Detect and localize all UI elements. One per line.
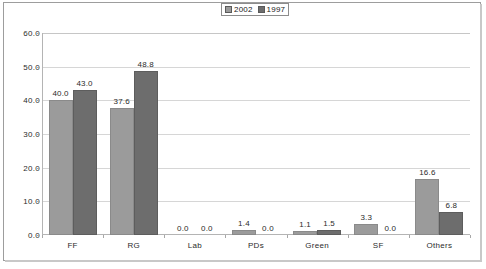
x-tick-mark (348, 235, 349, 238)
bar-value-label: 0.0 (262, 224, 274, 233)
x-tick-label: Lab (164, 241, 225, 250)
chart-container: 2002 1997 0.010.020.030.040.050.060.0 40… (0, 0, 486, 269)
x-tick-label: Green (287, 241, 348, 250)
bar-value-label: 16.6 (419, 168, 435, 177)
bar-2002-SF[interactable] (354, 224, 378, 235)
bar-group: 0.00.0 (164, 33, 225, 235)
bar-slot: 6.8 (439, 33, 463, 235)
bar-group: 16.66.8 (409, 33, 470, 235)
y-tick-label: 50.0 (2, 62, 40, 71)
bar-slot: 3.3 (354, 33, 378, 235)
x-tick-mark (164, 235, 165, 238)
y-tick-mark (37, 235, 40, 236)
x-tick-mark (103, 235, 104, 238)
y-tick-label: 20.0 (2, 163, 40, 172)
bar-slot: 48.8 (134, 33, 158, 235)
x-tick-label: Others (409, 241, 470, 250)
bar-slot: 0.0 (171, 33, 195, 235)
bar-slot: 16.6 (415, 33, 439, 235)
bar-1997-RG[interactable] (134, 71, 158, 235)
y-tick-mark (37, 67, 40, 68)
legend-swatch-2002 (225, 6, 232, 13)
x-axis-ticks (42, 235, 470, 239)
bar-slot: 37.6 (110, 33, 134, 235)
bar-value-label: 3.3 (360, 213, 372, 222)
y-tick-mark (37, 168, 40, 169)
y-tick-mark (37, 100, 40, 101)
bar-slot: 1.1 (293, 33, 317, 235)
y-axis: 0.010.020.030.040.050.060.0 (0, 33, 40, 235)
bar-1997-FF[interactable] (73, 90, 97, 235)
bar-value-label: 1.1 (299, 220, 311, 229)
x-tick-mark (225, 235, 226, 238)
bar-value-label: 0.0 (201, 224, 213, 233)
bar-slot: 1.5 (317, 33, 341, 235)
legend-entry-1997: 1997 (258, 5, 286, 14)
x-tick-mark (409, 235, 410, 238)
legend-swatch-1997 (258, 6, 265, 13)
bar-groups: 40.043.037.648.80.00.01.40.01.11.53.30.0… (42, 33, 470, 235)
x-tick-mark (42, 235, 43, 238)
bar-2002-FF[interactable] (49, 100, 73, 235)
bar-slot: 0.0 (256, 33, 280, 235)
bar-group: 40.043.0 (42, 33, 103, 235)
x-tick-mark (470, 235, 471, 238)
legend-label-2002: 2002 (234, 5, 253, 14)
x-tick-label: FF (42, 241, 103, 250)
bar-group: 3.30.0 (348, 33, 409, 235)
bar-slot: 40.0 (49, 33, 73, 235)
bar-1997-Others[interactable] (439, 212, 463, 235)
bar-value-label: 1.4 (238, 219, 250, 228)
bar-slot: 0.0 (378, 33, 402, 235)
x-tick-label: PDs (225, 241, 286, 250)
x-tick-mark (287, 235, 288, 238)
bar-value-label: 40.0 (52, 89, 68, 98)
legend-entry-2002: 2002 (225, 5, 253, 14)
bar-slot: 0.0 (195, 33, 219, 235)
bar-2002-RG[interactable] (110, 108, 134, 235)
y-tick-label: 30.0 (2, 130, 40, 139)
x-tick-label: RG (103, 241, 164, 250)
y-tick-label: 10.0 (2, 197, 40, 206)
bar-value-label: 43.0 (76, 79, 92, 88)
bar-2002-Others[interactable] (415, 179, 439, 235)
legend-label-1997: 1997 (267, 5, 286, 14)
bar-value-label: 0.0 (384, 224, 396, 233)
y-tick-mark (37, 201, 40, 202)
bar-group: 1.11.5 (287, 33, 348, 235)
bar-slot: 43.0 (73, 33, 97, 235)
y-tick-label: 0.0 (2, 231, 40, 240)
bar-value-label: 6.8 (446, 201, 458, 210)
x-tick-label: SF (348, 241, 409, 250)
bar-slot: 1.4 (232, 33, 256, 235)
y-tick-mark (37, 33, 40, 34)
y-tick-label: 60.0 (2, 29, 40, 38)
bar-group: 1.40.0 (225, 33, 286, 235)
bar-value-label: 48.8 (138, 60, 154, 69)
y-tick-mark (37, 134, 40, 135)
y-tick-label: 40.0 (2, 96, 40, 105)
bar-value-label: 1.5 (323, 219, 335, 228)
bar-value-label: 0.0 (177, 224, 189, 233)
bar-group: 37.648.8 (103, 33, 164, 235)
chart-legend: 2002 1997 (221, 3, 289, 16)
x-axis-labels: FFRGLabPDsGreenSFOthers (42, 241, 470, 250)
bar-value-label: 37.6 (114, 97, 130, 106)
